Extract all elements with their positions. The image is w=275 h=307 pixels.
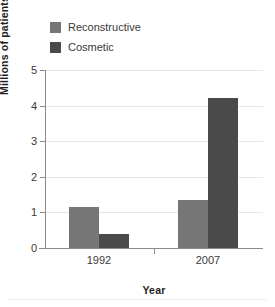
- x-axis-title: Year: [45, 284, 263, 296]
- x-axis-label-1992: 1992: [64, 254, 134, 266]
- x-axis-category-separator: [154, 248, 155, 254]
- x-axis-label-2007: 2007: [173, 254, 243, 266]
- bar-cosmetic-1992: [99, 234, 129, 248]
- legend-swatch-cosmetic: [50, 42, 61, 53]
- y-tick-label-0: 0: [17, 242, 37, 254]
- legend-item-cosmetic: Cosmetic: [50, 40, 141, 55]
- y-tick-label-1: 1: [17, 206, 37, 218]
- x-axis-line: [39, 248, 263, 249]
- y-tick-label-4: 4: [17, 100, 37, 112]
- legend-label-cosmetic: Cosmetic: [68, 42, 114, 53]
- plot-area: 012345 1992 2007 Year: [45, 70, 263, 248]
- bar-reconstructive-2007: [178, 200, 208, 248]
- y-tick-label-5: 5: [17, 64, 37, 76]
- chart-legend: Reconstructive Cosmetic: [50, 20, 141, 60]
- bar-reconstructive-1992: [69, 207, 99, 248]
- bar-cosmetic-2007: [208, 98, 238, 248]
- y-tick-label-2: 2: [17, 171, 37, 183]
- legend-item-reconstructive: Reconstructive: [50, 20, 141, 35]
- y-tick-label-3: 3: [17, 135, 37, 147]
- bottom-divider: [8, 299, 267, 300]
- legend-swatch-reconstructive: [50, 22, 61, 33]
- legend-label-reconstructive: Reconstructive: [68, 22, 141, 33]
- bar-chart: Reconstructive Cosmetic Millions of pati…: [0, 0, 275, 307]
- y-axis-title: Millions of patients: [0, 0, 10, 95]
- y-axis-line: [45, 70, 46, 248]
- gridline-5: [45, 70, 263, 71]
